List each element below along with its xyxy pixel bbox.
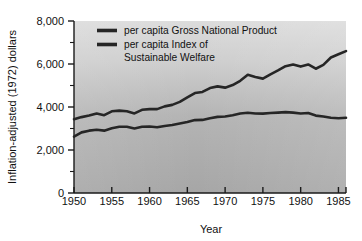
legend-label-isw-line1: per capita Index of <box>124 39 208 50</box>
y-tick-label: 2,000 <box>36 144 64 156</box>
y-axis-title: Inflation-adjusted (1972) dollars <box>6 29 18 184</box>
y-tick-label: 6,000 <box>36 58 64 70</box>
line-chart: 02,0004,0006,0008,000 195019551960196519… <box>0 0 362 241</box>
x-tick-label: 1985 <box>326 195 350 207</box>
x-tick-label: 1960 <box>137 195 161 207</box>
x-tick-label: 1975 <box>251 195 275 207</box>
x-axis-title: Year <box>200 223 223 235</box>
y-tick-label: 4,000 <box>36 101 64 113</box>
chart-figure: 02,0004,0006,0008,000 195019551960196519… <box>0 0 362 241</box>
x-tick-label: 1970 <box>213 195 237 207</box>
x-tick-label: 1965 <box>175 195 199 207</box>
x-tick-label: 1950 <box>62 195 86 207</box>
y-tick-label: 8,000 <box>36 15 64 27</box>
x-tick-label: 1980 <box>288 195 312 207</box>
legend-label-gnp: per capita Gross National Product <box>124 25 277 36</box>
legend-label-isw-line2: Sustainable Welfare <box>124 52 215 63</box>
x-tick-label: 1955 <box>100 195 124 207</box>
plot-area-sheen <box>74 21 346 193</box>
